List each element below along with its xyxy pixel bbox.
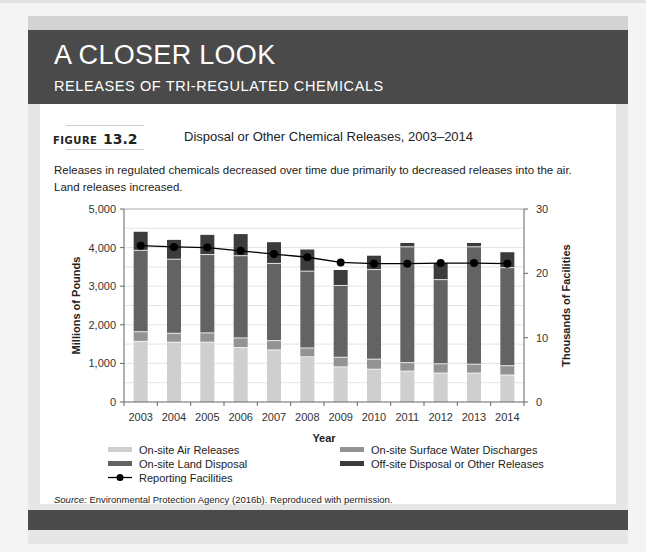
facilities-line-path <box>141 246 508 264</box>
y2-tick-label: 0 <box>536 396 542 408</box>
x-tick-label: 2009 <box>328 411 352 423</box>
bar-segment <box>400 243 414 247</box>
x-tick-label: 2012 <box>428 411 452 423</box>
bar-segment <box>467 364 481 373</box>
y-tick-label: 0 <box>110 396 116 408</box>
bar-segment <box>434 280 448 364</box>
chart-legend: On-site Air ReleasesOn-site Surface Wate… <box>108 444 544 484</box>
bar-segment <box>500 375 514 402</box>
y2-tick-label: 30 <box>536 203 548 215</box>
legend-swatch <box>108 447 132 452</box>
bar-segment <box>134 250 148 331</box>
facilities-point <box>237 247 245 255</box>
facilities-point <box>470 259 478 267</box>
bar-segment <box>234 348 248 402</box>
bar-segment <box>300 357 314 402</box>
y-tick-label: 5,000 <box>88 203 116 215</box>
legend-label: On-site Land Disposal <box>139 458 247 470</box>
y2-axis-title: Thousands of Facilities <box>560 244 572 366</box>
legend-label: On-site Air Releases <box>139 444 240 456</box>
bar-segment <box>200 255 214 333</box>
facilities-point <box>337 258 345 266</box>
legend-swatch <box>340 461 364 466</box>
bar-segment <box>334 367 348 402</box>
bar-segment <box>467 373 481 402</box>
bar-segment <box>467 243 481 247</box>
legend-label: On-site Surface Water Discharges <box>371 444 538 456</box>
y2-tick-label: 20 <box>536 267 548 279</box>
x-tick-label: 2005 <box>195 411 219 423</box>
y-tick-label: 3,000 <box>88 280 116 292</box>
facilities-point <box>137 242 145 250</box>
bar-segment <box>400 371 414 402</box>
y-axis-title: Millions of Pounds <box>70 257 82 355</box>
y-tick-label: 2,000 <box>88 319 116 331</box>
facilities-point <box>170 243 178 251</box>
bar-segment <box>167 333 181 342</box>
x-tick-label: 2006 <box>228 411 252 423</box>
legend-label: Reporting Facilities <box>139 472 233 484</box>
chart-bars <box>134 232 515 402</box>
x-tick-label: 2008 <box>295 411 319 423</box>
bar-segment <box>434 364 448 373</box>
bar-segment <box>134 341 148 402</box>
bar-segment <box>134 332 148 342</box>
facilities-point <box>503 260 511 268</box>
facilities-point <box>437 259 445 267</box>
bar-segment <box>167 342 181 402</box>
source-note: Source: Environmental Protection Agency … <box>54 494 393 505</box>
y-tick-label: 4,000 <box>88 242 116 254</box>
x-tick-label: 2003 <box>128 411 152 423</box>
source-text: Environmental Protection Agency (2016b).… <box>87 494 393 505</box>
bar-segment <box>367 359 381 369</box>
chart-gridlines <box>124 209 524 383</box>
bar-segment <box>267 263 281 340</box>
facilities-point <box>303 253 311 261</box>
bar-segment <box>300 348 314 357</box>
bar-segment <box>200 342 214 402</box>
x-tick-label: 2011 <box>396 411 420 423</box>
y-tick-label: 1,000 <box>88 357 116 369</box>
facilities-point <box>203 244 211 252</box>
bar-segment <box>334 285 348 357</box>
x-tick-label: 2004 <box>162 411 186 423</box>
facilities-line <box>137 242 512 268</box>
x-tick-label: 2013 <box>462 411 486 423</box>
bar-segment <box>500 268 514 366</box>
facilities-point <box>403 260 411 268</box>
stacked-bar-chart: 01,0002,0003,0004,0005,00001020302003200… <box>0 0 646 552</box>
x-tick-label: 2007 <box>262 411 286 423</box>
legend-swatch <box>340 447 364 452</box>
legend-swatch <box>108 461 132 466</box>
source-prefix: Source: <box>54 494 87 505</box>
bar-segment <box>234 338 248 348</box>
facilities-point <box>270 250 278 258</box>
bar-segment <box>300 271 314 348</box>
bar-segment <box>267 350 281 402</box>
facilities-point <box>370 260 378 268</box>
bar-segment <box>234 256 248 338</box>
bar-segment <box>500 366 514 375</box>
bar-segment <box>334 357 348 367</box>
bar-segment <box>400 363 414 371</box>
x-tick-label: 2014 <box>495 411 519 423</box>
bar-segment <box>367 270 381 360</box>
bar-segment <box>367 369 381 402</box>
y2-tick-label: 10 <box>536 332 548 344</box>
bar-segment <box>200 333 214 342</box>
bar-segment <box>434 373 448 402</box>
x-tick-label: 2010 <box>362 411 386 423</box>
legend-label: Off-site Disposal or Other Releases <box>371 458 544 470</box>
bar-segment <box>267 341 281 350</box>
x-axis-title: Year <box>312 432 336 444</box>
bar-segment <box>167 259 181 333</box>
bar-segment <box>334 270 348 285</box>
